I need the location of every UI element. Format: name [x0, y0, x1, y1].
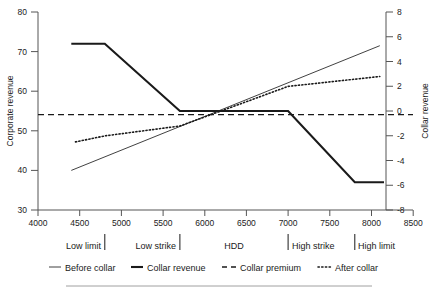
- annotation-label-low-strike: Low strike: [135, 241, 176, 251]
- legend-label-before-collar: Before collar: [65, 263, 116, 273]
- y-axis-left-ticks: 80 70 60 50 40 30: [18, 7, 38, 215]
- y-tick-label-60: 60: [18, 86, 28, 96]
- y2-tick-label-6: 6: [397, 32, 402, 42]
- x-tick-label-4500: 4500: [70, 218, 89, 228]
- y2-tick-label-4: 4: [397, 57, 402, 67]
- chart-legend: Before collar Collar revenue Collar prem…: [49, 263, 378, 273]
- y-tick-label-50: 50: [18, 126, 28, 136]
- legend-item-collar-revenue: Collar revenue: [131, 263, 206, 273]
- x-tick-label-7000: 7000: [279, 218, 298, 228]
- x-tick-label-5500: 5500: [154, 218, 173, 228]
- x-tick-label-7500: 7500: [320, 218, 339, 228]
- y2-tick-label-neg2: -2: [397, 131, 405, 141]
- y2-tick-label-neg6: -6: [397, 180, 405, 190]
- y-tick-label-30: 30: [18, 205, 28, 215]
- x-tick-label-8500: 8500: [404, 218, 423, 228]
- y-axis-right-title: Collar revenue: [420, 83, 430, 139]
- legend-label-collar-revenue: Collar revenue: [147, 263, 206, 273]
- collar-revenue-line-chart: 80 70 60 50 40 30 8 6 4 2 0 -2 -4 -6 -8: [0, 0, 436, 289]
- y-tick-label-40: 40: [18, 165, 28, 175]
- y-tick-label-80: 80: [18, 7, 28, 17]
- annotation-label-high-strike: High strike: [292, 241, 335, 251]
- y2-tick-label-2: 2: [397, 81, 402, 91]
- annotation-label-hdd: HDD: [224, 241, 244, 251]
- legend-item-collar-premium: Collar premium: [222, 263, 301, 273]
- series-collar-revenue: [71, 44, 384, 183]
- annotation-label-high-limit: High limit: [358, 241, 396, 251]
- annotation-labels: Low limit Low strike HDD High strike Hig…: [66, 241, 396, 251]
- legend-item-before-collar: Before collar: [49, 263, 116, 273]
- legend-item-after-collar: After collar: [318, 263, 378, 273]
- y2-tick-label-neg4: -4: [397, 156, 405, 166]
- annotation-label-low-limit: Low limit: [66, 241, 102, 251]
- y-axis-right-ticks: 8 6 4 2 0 -2 -4 -6 -8: [386, 7, 405, 215]
- x-axis-ticks: 4000 4500 5000 5500 6000 6500 7000 7500 …: [29, 210, 423, 228]
- y2-tick-label-neg8: -8: [397, 205, 405, 215]
- x-tick-label-6500: 6500: [237, 218, 256, 228]
- x-tick-label-4000: 4000: [29, 218, 48, 228]
- chart-figure: 80 70 60 50 40 30 8 6 4 2 0 -2 -4 -6 -8: [0, 0, 436, 289]
- series-after-collar: [76, 77, 380, 142]
- x-tick-label-8000: 8000: [362, 218, 381, 228]
- x-tick-label-6000: 6000: [195, 218, 214, 228]
- y-tick-label-70: 70: [18, 47, 28, 57]
- y2-tick-label-8: 8: [397, 7, 402, 17]
- series-before-collar: [71, 46, 380, 171]
- legend-label-after-collar: After collar: [335, 263, 378, 273]
- x-tick-label-5000: 5000: [112, 218, 131, 228]
- legend-label-collar-premium: Collar premium: [240, 263, 301, 273]
- y-axis-left-title: Corporate revenue: [5, 75, 15, 146]
